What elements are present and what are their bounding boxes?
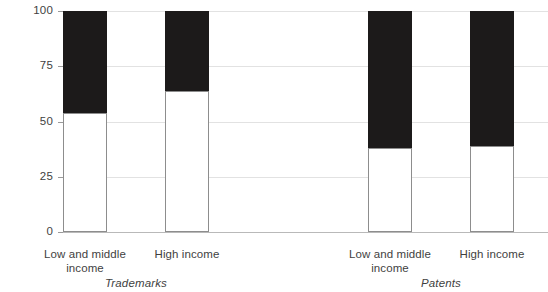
bar-3-upper-segment: [368, 11, 412, 148]
bar-2-lower-segment: [165, 91, 209, 232]
bar-4-upper-segment: [470, 11, 514, 146]
bar-1-lower-segment: [63, 113, 107, 232]
x-axis-label-1: Low and middle income: [31, 248, 139, 275]
y-tick-label-50: 50: [9, 116, 53, 128]
table-row: [63, 11, 107, 232]
stacked-bar-chart: 100 75 50 25 0: [0, 0, 548, 292]
table-row: [470, 11, 514, 232]
x-axis-label-3: Low and middle income: [336, 248, 444, 275]
x-axis-label-3-line1: Low and middle: [336, 248, 444, 262]
y-tick-label-25: 25: [9, 171, 53, 183]
y-tick-label-75: 75: [9, 60, 53, 72]
x-axis-label-1-line2: income: [31, 262, 139, 276]
bar-2-upper-segment: [165, 11, 209, 91]
table-row: [165, 11, 209, 232]
gridline-0: [63, 232, 548, 233]
x-axis-label-2-line1: High income: [133, 248, 241, 262]
x-axis-label-3-line2: income: [336, 262, 444, 276]
plot-area: [63, 11, 548, 232]
x-axis-label-4-line1: High income: [438, 248, 546, 262]
y-tick-label-0: 0: [9, 226, 53, 238]
group-label-patents: Patents: [365, 277, 517, 290]
bar-4-lower-segment: [470, 146, 514, 232]
group-label-trademarks: Trademarks: [60, 277, 212, 290]
x-axis-label-4: High income: [438, 248, 546, 262]
x-axis-label-2: High income: [133, 248, 241, 262]
bar-1-upper-segment: [63, 11, 107, 113]
table-row: [368, 11, 412, 232]
y-tick-label-100: 100: [9, 5, 53, 17]
bar-3-lower-segment: [368, 148, 412, 232]
x-axis-label-1-line1: Low and middle: [31, 248, 139, 262]
